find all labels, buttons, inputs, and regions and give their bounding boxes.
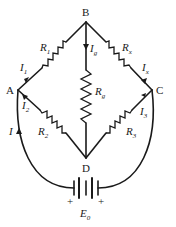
resistor-rg: [81, 70, 91, 123]
label-ix: Ix: [141, 61, 150, 76]
battery-plus-right: +: [98, 195, 104, 207]
label-rx: Rx: [121, 41, 133, 56]
branch-r3: [86, 90, 152, 158]
branch-r1: [18, 22, 86, 90]
label-i1: I1: [19, 61, 27, 76]
label-r1: R1: [39, 41, 50, 56]
label-i: I: [8, 125, 14, 137]
label-rg: Rg: [94, 85, 106, 100]
branch-r2: [18, 90, 86, 158]
node-label-b: B: [82, 6, 89, 18]
battery-label: E0: [79, 207, 91, 222]
battery-plus-left: +: [67, 195, 73, 207]
node-label-d: D: [82, 162, 90, 174]
node-label-c: C: [156, 84, 163, 96]
label-r2: R2: [37, 125, 49, 140]
label-i3: I3: [139, 105, 148, 120]
node-label-a: A: [6, 84, 14, 96]
wheatstone-bridge-diagram: B A C D: [0, 0, 176, 227]
arrow-i-icon: [16, 128, 22, 134]
label-r3: R3: [125, 125, 137, 140]
label-i2: I2: [21, 99, 30, 114]
label-ig: Ig: [89, 42, 98, 57]
arrow-ig-icon: [83, 44, 89, 50]
battery-e0: [74, 178, 98, 198]
